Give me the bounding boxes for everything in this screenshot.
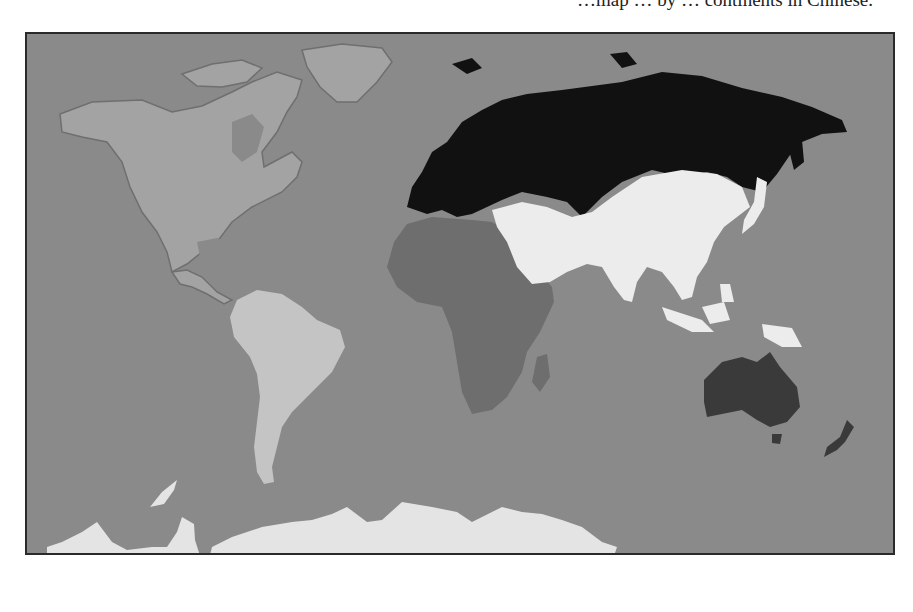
map-caption: …map … by … continents in Chinese. [0, 0, 913, 11]
world-map [25, 32, 895, 555]
